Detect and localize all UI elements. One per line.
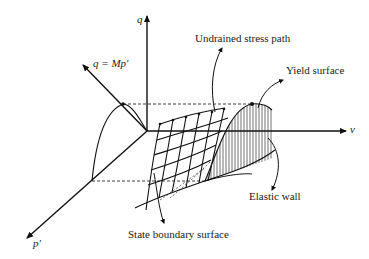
undrained-leader (212, 48, 222, 112)
yield-peak-point (250, 102, 254, 106)
p-axis (27, 131, 147, 238)
state-boundary-diagram (0, 0, 369, 259)
elastic-wall-extension (205, 174, 252, 181)
yield-leader (258, 80, 283, 108)
v-axis-label: v (350, 124, 355, 135)
elastic-wall-label: Elastic wall (249, 191, 301, 202)
elastic-leader (268, 138, 278, 190)
yield-surface-label: Yield surface (286, 65, 344, 76)
state-boundary-surface-label: State boundary surface (128, 229, 229, 240)
csl-line (83, 65, 147, 131)
q-axis-label: q (137, 14, 143, 25)
csl-point (121, 102, 125, 106)
p-axis-label: p′ (33, 238, 41, 249)
axes (27, 16, 346, 238)
csl-label: q = Mp′ (93, 58, 129, 69)
projection-lines (92, 104, 252, 181)
undrained-stress-path-label: Undrained stress path (195, 33, 290, 44)
yield-curve-qp (92, 104, 147, 181)
